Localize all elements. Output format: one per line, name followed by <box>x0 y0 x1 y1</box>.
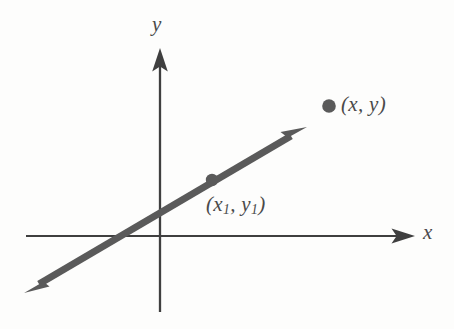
comma: , <box>230 192 241 216</box>
paren-close: ) <box>258 192 265 216</box>
coordinate-diagram <box>0 0 454 329</box>
point-marker-x1y1 <box>206 174 218 186</box>
axis-label-x: x <box>423 222 432 243</box>
var-x: x <box>213 192 223 216</box>
x-axis <box>26 228 415 243</box>
y-axis <box>152 48 168 312</box>
line-arrowhead-lower-left-icon <box>24 276 54 294</box>
point-label-xy: (x, y) <box>341 94 386 115</box>
axis-label-y: y <box>152 14 161 35</box>
line-arrowhead-upper-right-icon <box>277 127 308 144</box>
var-y: y <box>241 192 251 216</box>
point-label-x1y1: (x1, y1) <box>206 194 265 217</box>
point-marker-xy <box>322 99 336 113</box>
